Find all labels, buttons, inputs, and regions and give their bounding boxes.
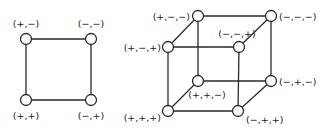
cube-node-mpp [233,106,244,117]
square-label-pm: (+,−) [13,18,39,29]
square-graph: (+,−) (−,−) (+,+) (−,+) [13,18,104,121]
cube-node-mmm [266,11,277,22]
cube-label-ppp: (+,+,+) [124,112,161,123]
cube-label-ppm: (+,+,−) [188,89,225,100]
square-node-pp [21,95,32,106]
cube-edge [238,81,271,111]
cube-node-mmp [234,42,245,53]
cube-node-ppp [163,106,174,117]
square-label-pp: (+,+) [13,110,39,121]
cube-edge [238,47,239,111]
cube-node-mpm [266,76,277,87]
cube-graph: (+,−,−) (−,−,−) (+,−,+) (−,−,+) (+,+,−) … [124,11,317,126]
cube-label-mmm: (−,−,−) [279,11,316,22]
square-node-pm [21,34,32,45]
cube-node-pmp [163,42,174,53]
square-label-mp: (−,+) [78,110,104,121]
cube-label-mpm: (−,+,−) [279,76,316,87]
cube-node-pmm [193,11,204,22]
cube-node-ppm [193,76,204,87]
cube-label-pmm: (+,−,−) [153,11,190,22]
sign-vertex-diagram: (+,−) (−,−) (+,+) (−,+) (+,−,−) (−,−,−) … [0,0,323,131]
square-node-mp [86,95,97,106]
cube-label-pmp: (+,−,+) [124,42,161,53]
cube-label-mpp: (−,+,+) [246,114,283,125]
square-label-mm: (−,−) [78,18,104,29]
cube-label-mmp: (−,−,+) [218,28,255,39]
square-node-mm [86,34,97,45]
